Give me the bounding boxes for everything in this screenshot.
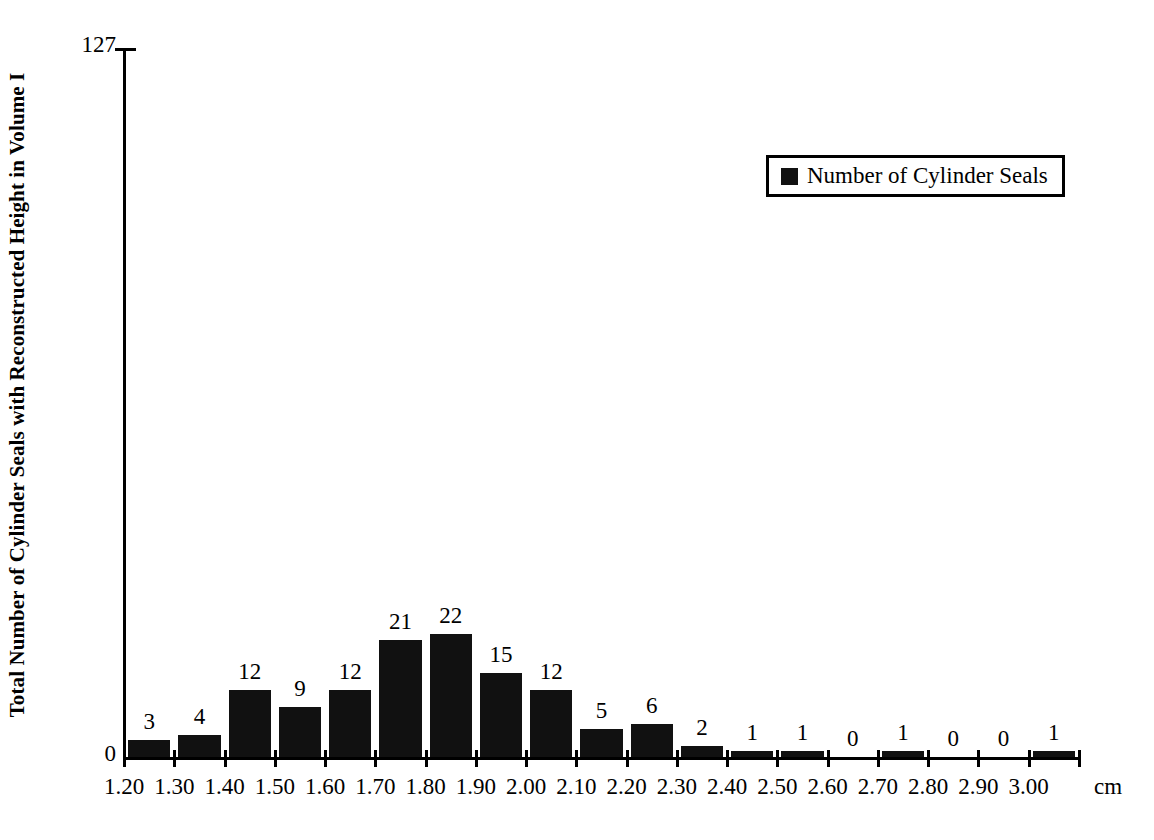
- bar-value-label: 9: [275, 677, 325, 700]
- bar-value-label: 21: [375, 610, 425, 633]
- y-axis-title: Total Number of Cylinder Seals with Reco…: [0, 0, 34, 790]
- bar[interactable]: [530, 690, 572, 757]
- x-axis-tick: [525, 750, 528, 767]
- bar[interactable]: [781, 751, 823, 757]
- x-axis-tick: [977, 750, 980, 767]
- x-axis-tick: [1028, 750, 1031, 767]
- bar[interactable]: [329, 690, 371, 757]
- x-axis-tick: [123, 750, 126, 767]
- bar-value-label: 5: [576, 699, 626, 722]
- bar-value-label: 2: [677, 716, 727, 739]
- x-axis-tick: [374, 750, 377, 767]
- bar[interactable]: [279, 707, 321, 757]
- bar-value-label: 0: [928, 727, 978, 750]
- y-axis-max-tick-label: 127: [58, 32, 116, 58]
- x-axis-tick: [173, 750, 176, 767]
- x-axis-tick: [425, 750, 428, 767]
- x-axis-tick: [626, 750, 629, 767]
- bar-value-label: 12: [225, 660, 275, 683]
- x-axis-tick: [274, 750, 277, 767]
- bar-value-label: 0: [828, 727, 878, 750]
- bar[interactable]: [480, 673, 522, 757]
- bar[interactable]: [882, 751, 924, 757]
- chart-legend: Number of Cylinder Seals: [766, 155, 1065, 197]
- x-axis-tick: [676, 750, 679, 767]
- bar[interactable]: [430, 634, 472, 757]
- x-axis-tick: [877, 750, 880, 767]
- bar[interactable]: [1033, 751, 1075, 757]
- bar[interactable]: [631, 724, 673, 757]
- x-axis-line: [123, 757, 1080, 760]
- bar[interactable]: [128, 740, 170, 757]
- bar-value-label: 12: [325, 660, 375, 683]
- y-axis-line: [123, 48, 126, 757]
- legend-swatch-icon: [781, 168, 798, 185]
- bar-value-label: 22: [426, 604, 476, 627]
- bar-value-label: 1: [727, 721, 777, 744]
- x-axis-tick: [1078, 750, 1081, 767]
- x-axis-tick: [324, 750, 327, 767]
- x-axis-tick: [224, 750, 227, 767]
- x-axis-unit-label: cm: [1094, 774, 1122, 800]
- bar[interactable]: [681, 746, 723, 757]
- x-axis-tick: [827, 750, 830, 767]
- legend-entry-label: Number of Cylinder Seals: [807, 163, 1048, 189]
- bar-value-label: 3: [124, 710, 174, 733]
- bar-value-label: 1: [878, 721, 928, 744]
- x-axis-tick: [927, 750, 930, 767]
- bar-value-label: 4: [174, 705, 224, 728]
- x-axis-tick: [726, 750, 729, 767]
- bar[interactable]: [178, 735, 220, 757]
- chart-page: Total Number of Cylinder Seals with Reco…: [0, 0, 1154, 840]
- y-axis-min-tick-label: 0: [58, 741, 116, 767]
- bar-value-label: 1: [1029, 721, 1079, 744]
- x-axis-tick: [776, 750, 779, 767]
- bar[interactable]: [379, 640, 421, 757]
- bar-value-label: 15: [476, 643, 526, 666]
- bar-value-label: 6: [627, 694, 677, 717]
- bar[interactable]: [731, 751, 773, 757]
- x-axis-tick-label: 3.00: [999, 774, 1059, 800]
- y-axis-top-tick: [115, 48, 136, 51]
- bar[interactable]: [229, 690, 271, 757]
- x-axis-tick: [475, 750, 478, 767]
- bar-value-label: 12: [526, 660, 576, 683]
- bar-value-label: 0: [978, 727, 1028, 750]
- bar[interactable]: [580, 729, 622, 757]
- x-axis-tick: [575, 750, 578, 767]
- bar-value-label: 1: [777, 721, 827, 744]
